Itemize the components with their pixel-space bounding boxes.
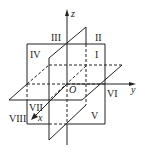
octant-label-2: II [95, 32, 102, 43]
z-arrow-icon [65, 9, 69, 16]
octant-diagram: z y x O I II III IV V VI VII VIII [0, 0, 145, 157]
octant-label-1: I [95, 49, 98, 60]
y-label: y [130, 84, 136, 95]
octant-label-8: VIII [9, 113, 26, 124]
octant-label-4: IV [30, 49, 41, 60]
octant-label-3: III [51, 32, 61, 43]
x-label: x [37, 112, 43, 123]
octant-label-7: VII [29, 102, 43, 113]
origin-label: O [69, 84, 76, 95]
octant-label-5: V [91, 110, 99, 121]
octant-label-6: VI [107, 88, 118, 99]
z-label: z [70, 8, 75, 19]
